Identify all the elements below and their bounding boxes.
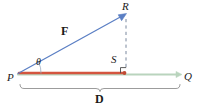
displacement-vector-label: D <box>95 93 104 105</box>
projection-endpoint-dot <box>123 71 127 75</box>
point-label-s: S <box>111 54 117 65</box>
dimension-brace-icon <box>20 85 180 92</box>
point-label-q: Q <box>184 71 192 82</box>
force-arrowhead-icon <box>118 14 126 21</box>
point-label-r: R <box>122 1 129 12</box>
physics-force-diagram: P Q R S F D θ <box>0 0 201 109</box>
force-vector-line <box>18 16 123 74</box>
force-vector-label: F <box>61 25 68 37</box>
point-label-p: P <box>7 72 14 83</box>
angle-label-theta: θ <box>36 57 41 67</box>
displacement-arrowhead-icon <box>176 71 182 77</box>
